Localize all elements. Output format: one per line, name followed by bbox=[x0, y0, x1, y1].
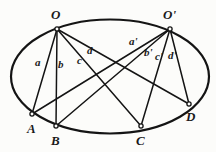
geometry-figure: OO'ABCDabcda'b'c'd' bbox=[0, 0, 216, 152]
vertex-marker-op bbox=[168, 27, 172, 31]
segment-ob bbox=[56, 29, 57, 126]
ellipse-outline bbox=[11, 20, 209, 134]
vertex-label-o: O bbox=[51, 8, 60, 21]
segment-label-opb: b' bbox=[144, 47, 153, 58]
vertex-label-op: O' bbox=[163, 8, 176, 21]
vertex-marker-c bbox=[139, 124, 143, 128]
segment-label-opd: d' bbox=[168, 50, 177, 61]
segment-label-opa: a' bbox=[129, 36, 138, 47]
vertex-label-c: C bbox=[136, 134, 145, 147]
vertex-marker-d bbox=[187, 102, 191, 106]
vertex-label-a: A bbox=[27, 122, 36, 135]
vertex-label-b: B bbox=[51, 134, 60, 147]
segment-od bbox=[57, 29, 189, 104]
segment-label-opc: c' bbox=[155, 51, 163, 62]
vertex-label-d: D bbox=[186, 110, 195, 123]
segment-label-ob: b bbox=[58, 59, 64, 70]
ellipse-curve bbox=[11, 20, 209, 134]
segment-lines bbox=[32, 29, 189, 126]
segment-opb bbox=[56, 29, 170, 126]
segment-label-oa: a bbox=[35, 57, 41, 68]
vertex-markers bbox=[30, 27, 191, 128]
vertex-marker-b bbox=[54, 124, 58, 128]
segment-label-oc: c bbox=[77, 55, 82, 66]
vertex-marker-o bbox=[55, 27, 59, 31]
vertex-marker-a bbox=[30, 112, 34, 116]
segment-label-od: d bbox=[87, 45, 93, 56]
